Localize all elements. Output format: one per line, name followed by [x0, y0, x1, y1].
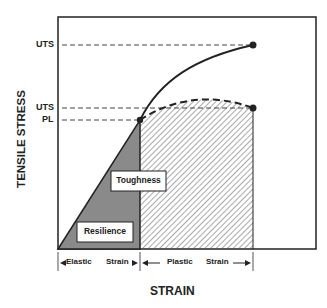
y-axis-label: TENSILE STRESS: [15, 84, 27, 194]
uts-lower-point: [250, 105, 257, 112]
resilience-label: Resilience: [77, 226, 133, 236]
toughness-label: Toughness: [111, 175, 166, 185]
pl-label: PL: [42, 114, 54, 124]
x-axis-label: STRAIN: [150, 284, 195, 298]
uts-upper-label: UTS: [36, 39, 54, 49]
plastic-strain-left: Plastic: [167, 257, 193, 266]
plastic-strain-right: Strain: [206, 257, 229, 266]
elastic-strain-right: Strain: [106, 257, 129, 266]
elastic-strain-left: Elastic: [66, 257, 92, 266]
pl-point: [137, 117, 143, 123]
uts-lower-label: UTS: [36, 102, 54, 112]
uts-upper-point: [250, 42, 257, 49]
